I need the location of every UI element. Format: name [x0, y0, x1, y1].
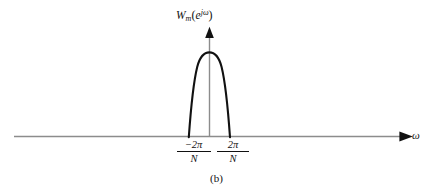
figure-panel-b: Wm(ejω) ω −2π N 2π N (b) [0, 0, 433, 194]
y-axis-label-close-paren: ) [209, 8, 213, 22]
x-axis-name-omega: ω [412, 130, 420, 141]
x-tick-left-denominator: N [176, 152, 212, 164]
y-axis-function-label: Wm(ejω) [176, 9, 213, 23]
figure-canvas [0, 0, 433, 194]
x-tick-right-numerator: 2π [216, 139, 250, 151]
x-tick-left-numerator-value: 2π [192, 139, 203, 150]
y-axis-label-superscript: jω [201, 8, 209, 17]
y-axis-label-base: W [176, 9, 186, 21]
x-tick-right-numerator-value: 2π [228, 139, 239, 150]
x-tick-left-numerator: −2π [176, 139, 212, 151]
figure-caption: (b) [0, 173, 433, 184]
x-tick-right-denominator: N [216, 152, 250, 164]
x-tick-label-negative-two-pi-over-n: −2π N [176, 139, 212, 164]
x-tick-label-two-pi-over-n: 2π N [216, 139, 250, 164]
